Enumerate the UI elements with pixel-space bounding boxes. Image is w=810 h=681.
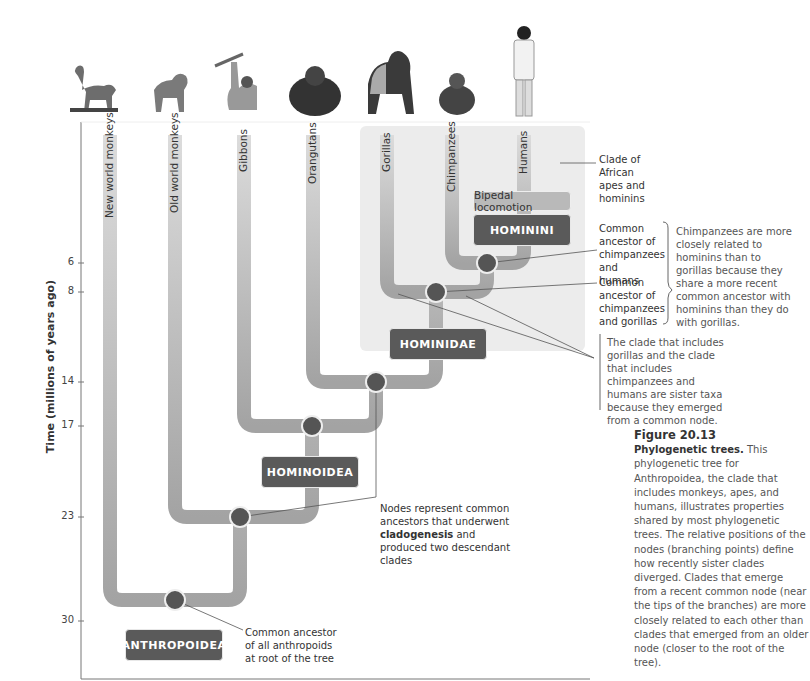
gorilla-icon xyxy=(358,48,416,116)
taxon-humans: Humans xyxy=(517,131,529,174)
human-icon xyxy=(507,24,541,118)
tick-30: 30 xyxy=(54,614,74,625)
node-23 xyxy=(230,507,250,527)
taxon-gorillas: Gorillas xyxy=(380,132,392,172)
tick-17: 17 xyxy=(54,419,74,430)
caption-body: This phylogenetic tree for Anthropoidea,… xyxy=(634,444,808,668)
annotation-chimp-explanation: Chimpanzees are more closely related to … xyxy=(676,225,798,329)
taxon-gibbons: Gibbons xyxy=(237,129,249,172)
node-17 xyxy=(302,416,322,436)
clade-hominidae: HOMINIDAE xyxy=(389,328,487,360)
annotation-sister-taxa: The clade that includes gorillas and the… xyxy=(607,336,731,427)
orangutan-icon xyxy=(287,64,343,116)
figure-caption: Figure 20.13 Phylogenetic trees. This ph… xyxy=(634,428,809,670)
caption-title: Phylogenetic trees. xyxy=(634,444,744,455)
taxon-chimpanzees: Chimpanzees xyxy=(445,121,457,192)
gibbon-icon xyxy=(213,52,263,114)
clade-anthropoidea: ANTHROPOIDEA xyxy=(125,629,223,661)
node-6 xyxy=(477,253,497,273)
cladogenesis-term: cladogenesis xyxy=(380,529,453,540)
taxon-orangutans: Orangutans xyxy=(306,122,318,184)
new-world-monkey-icon xyxy=(70,62,120,112)
old-world-monkey-icon xyxy=(148,68,192,114)
figure-number: Figure 20.13 xyxy=(634,428,809,442)
tick-14: 14 xyxy=(54,375,74,386)
node-8 xyxy=(426,282,446,302)
node-30 xyxy=(165,590,185,610)
y-axis-label: Time (millions of years ago) xyxy=(44,267,57,467)
tick-23: 23 xyxy=(54,510,74,521)
tick-6: 6 xyxy=(54,256,74,267)
node-14 xyxy=(366,372,386,392)
annotation-nodes: Nodes represent common ancestors that un… xyxy=(380,502,515,567)
taxon-old-world-monkeys: Old world monkeys xyxy=(168,112,180,213)
clade-hominini: HOMININI xyxy=(473,214,571,246)
taxon-new-world-monkeys: New world monkeys xyxy=(103,112,115,218)
clade-hominoidea: HOMINOIDEA xyxy=(261,456,359,488)
annotation-root: Common ancestor of all anthropoids at ro… xyxy=(245,626,345,665)
bipedal-locomotion-label: Bipedal locomotion xyxy=(473,191,571,211)
tick-8: 8 xyxy=(54,285,74,296)
chimpanzee-icon xyxy=(436,72,478,116)
annotation-ancestor-chimp-gorilla: Common ancestor of chimpanzees and goril… xyxy=(599,276,661,328)
annotation-african-clade: Clade of African apes and hominins xyxy=(599,153,659,205)
